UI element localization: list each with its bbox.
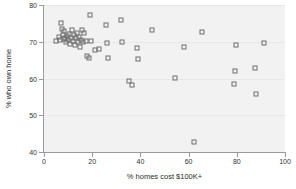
y-axis-title-text: % who own home <box>5 49 14 108</box>
y-tick-mark <box>39 152 43 153</box>
data-point <box>232 82 237 87</box>
y-tick-label: 70 <box>29 38 37 45</box>
x-tick-mark <box>189 153 190 157</box>
x-axis-line <box>43 152 286 153</box>
x-tick-mark <box>140 153 141 157</box>
data-point <box>120 40 125 45</box>
data-point <box>118 18 123 23</box>
scatter-plot-figure: % homes cost $100K+ % who own home 02040… <box>0 0 296 189</box>
y-tick-label: 50 <box>29 112 37 119</box>
gridline <box>44 5 285 6</box>
data-point <box>82 31 87 36</box>
gridline <box>44 79 285 80</box>
y-tick-mark <box>39 42 43 43</box>
data-point <box>89 39 94 44</box>
data-point <box>103 22 108 27</box>
x-tick-label: 100 <box>279 158 291 165</box>
data-point <box>254 92 259 97</box>
data-point <box>262 40 267 45</box>
y-tick-mark <box>39 79 43 80</box>
plot-area <box>44 5 285 152</box>
x-axis-title: % homes cost $100K+ <box>44 172 285 181</box>
y-tick-label: 40 <box>29 149 37 156</box>
data-point <box>87 12 92 17</box>
x-tick-mark <box>92 153 93 157</box>
data-point <box>130 82 135 87</box>
x-tick-mark <box>237 153 238 157</box>
data-point <box>135 57 140 62</box>
y-axis-line <box>43 5 44 153</box>
x-tick-label: 40 <box>136 158 144 165</box>
data-point <box>134 45 139 50</box>
y-tick-mark <box>39 5 43 6</box>
data-point <box>97 47 102 52</box>
y-tick-label: 60 <box>29 75 37 82</box>
y-tick-mark <box>39 115 43 116</box>
x-tick-label: 80 <box>233 158 241 165</box>
data-point <box>58 20 63 25</box>
data-point <box>104 40 109 45</box>
data-point <box>86 55 91 60</box>
data-point <box>252 66 257 71</box>
data-point <box>200 30 205 35</box>
data-point <box>149 27 154 32</box>
x-tick-mark <box>285 153 286 157</box>
data-point <box>105 55 110 60</box>
gridline <box>44 115 285 116</box>
y-tick-label: 80 <box>29 2 37 9</box>
data-point <box>233 68 238 73</box>
x-tick-mark <box>44 153 45 157</box>
y-axis-title: % who own home <box>4 5 14 152</box>
data-point <box>172 75 177 80</box>
x-tick-label: 0 <box>42 158 46 165</box>
data-point <box>191 140 196 145</box>
x-tick-label: 60 <box>185 158 193 165</box>
data-point <box>181 45 186 50</box>
data-point <box>83 38 88 43</box>
x-tick-label: 20 <box>88 158 96 165</box>
data-point <box>234 43 239 48</box>
data-point <box>77 44 82 49</box>
